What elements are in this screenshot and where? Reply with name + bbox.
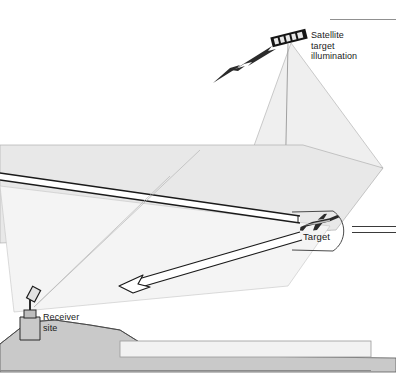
diagram-canvas: Satellite target illumination Target Rec… [0,0,396,386]
satellite-label: Satellite target illumination [311,30,357,62]
satellite-icon [270,29,307,47]
ground-band [120,341,371,357]
target-label: Target [303,232,330,243]
receiver-pedestal-cap [24,310,36,318]
receiver-pedestal [20,317,40,340]
lightning-bolt-icon [213,46,276,83]
receiver-site-label: Receiver site [43,312,79,333]
